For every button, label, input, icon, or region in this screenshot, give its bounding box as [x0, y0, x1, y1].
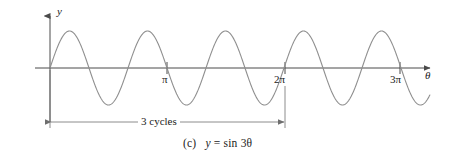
figure-caption: (c)y = sin 3θ	[183, 138, 252, 150]
caption-equation-equals: =	[214, 137, 221, 149]
caption-equation-rhs: sin 3θ	[224, 137, 253, 149]
caption-marker: (c)	[183, 137, 196, 149]
y-axis-label: y	[57, 6, 62, 17]
caption-equation-lhs: y	[205, 137, 210, 149]
x-tick-label-3pi: 3π	[390, 74, 401, 85]
x-tick-label-2pi: 2π	[274, 74, 285, 85]
dimension-label-3-cycles: 3 cycles	[138, 116, 180, 127]
x-tick-label-pi: π	[162, 74, 168, 85]
x-axis-label: θ	[425, 70, 430, 81]
figure-container: y θ π 2π 3π 3 cycles (c)y = sin 3θ	[0, 0, 450, 158]
sine-wave-plot	[0, 0, 450, 158]
